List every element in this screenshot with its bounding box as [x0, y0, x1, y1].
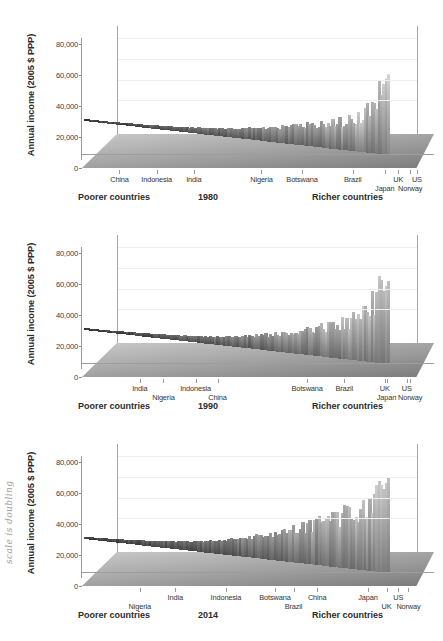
x-tick-mark [175, 588, 176, 592]
country-label-us: US [412, 175, 422, 184]
caption-poorer: Poorer countries [78, 610, 150, 620]
country-label-uk: UK [380, 384, 390, 393]
panel-year: 1980 [198, 192, 218, 202]
x-tick-mark [398, 170, 399, 174]
y-axis-title: Annual income (2005 $ PPP) [26, 20, 40, 170]
caption-poorer: Poorer countries [78, 401, 150, 411]
x-tick-mark [163, 379, 164, 383]
y-axis-title: Annual income (2005 $ PPP) [26, 229, 40, 379]
x-tick-mark [157, 170, 158, 174]
x-axis-baseline [82, 572, 434, 573]
country-label-china: China [110, 175, 129, 184]
chart-panel-1990: Annual income (2005 $ PPP) 020,00040,000… [0, 209, 443, 418]
x-tick-mark [261, 170, 262, 174]
country-label-nigeria: Nigeria [250, 175, 272, 184]
y-tick-label: 80,000 [56, 39, 78, 48]
x-tick-mark [353, 170, 354, 174]
x-tick-mark [398, 588, 399, 592]
panel-caption: Poorer countries 2014 Richer countries [0, 610, 443, 626]
y-axis-ticks: 020,00040,00060,00080,000 [52, 237, 82, 377]
x-tick-mark [417, 170, 418, 174]
country-ridge [387, 478, 390, 573]
x-tick-mark [368, 588, 369, 592]
country-label-brazil: Brazil [344, 175, 362, 184]
x-tick-mark [294, 588, 295, 592]
grid-line [118, 456, 417, 457]
plot-area [82, 440, 434, 586]
y-axis-ticks: 020,00040,00060,00080,000 [52, 446, 82, 586]
income-surface [82, 440, 434, 586]
y-tick-label: 40,000 [56, 310, 78, 319]
y-tick-label: 60,000 [56, 488, 78, 497]
x-tick-mark [302, 170, 303, 174]
country-label-uk: UK [393, 175, 403, 184]
x-tick-mark [196, 379, 197, 383]
country-label-india: India [132, 384, 147, 393]
country-label-japan: Japan [358, 593, 377, 602]
y-axis-ticks: 020,00040,00060,00080,000 [52, 28, 82, 168]
grid-line [118, 268, 417, 269]
y-tick-label: 0 [74, 582, 78, 591]
plot-area [82, 22, 434, 168]
grid-line [118, 477, 417, 478]
country-label-brazil: Brazil [335, 384, 353, 393]
grid-line [118, 247, 417, 248]
y-tick-label: 40,000 [56, 101, 78, 110]
x-tick-mark [385, 170, 386, 174]
grid-line [118, 59, 417, 60]
income-surface [82, 231, 434, 377]
chart-panel-1980: Annual income (2005 $ PPP) 020,00040,000… [0, 0, 443, 209]
y-tick-label: 0 [74, 373, 78, 382]
caption-richer: Richer countries [312, 401, 383, 411]
chart-panel-2014: Annual income (2005 $ PPP) 020,00040,000… [0, 418, 443, 627]
panel-caption: Poorer countries 1990 Richer countries [0, 401, 443, 417]
grid-line [118, 309, 417, 310]
caption-poorer: Poorer countries [78, 192, 150, 202]
x-axis-baseline [82, 363, 434, 364]
x-tick-mark [407, 379, 408, 383]
y-tick-label: 80,000 [56, 457, 78, 466]
x-axis-baseline [82, 154, 434, 155]
x-tick-mark [218, 379, 219, 383]
country-label-botswana: Botswana [259, 593, 290, 602]
plot-area [82, 231, 434, 377]
country-label-india: India [186, 175, 201, 184]
y-tick-label: 60,000 [56, 279, 78, 288]
country-label-us: US [402, 384, 412, 393]
grid-line [118, 518, 417, 519]
country-label-indonesia: Indonesia [141, 175, 172, 184]
y-tick-label: 20,000 [56, 550, 78, 559]
grid-line [118, 38, 417, 39]
y-tick-label: 20,000 [56, 341, 78, 350]
y-tick-label: 60,000 [56, 70, 78, 79]
x-tick-mark [408, 588, 409, 592]
x-tick-mark [140, 379, 141, 383]
y-tick-label: 0 [74, 164, 78, 173]
grid-line [118, 498, 417, 499]
y-axis-title: Annual income (2005 $ PPP) [26, 438, 40, 588]
x-tick-mark [275, 588, 276, 592]
country-label-india: India [168, 593, 183, 602]
x-tick-mark [307, 379, 308, 383]
country-label-botswana: Botswana [286, 175, 317, 184]
country-label-indonesia: Indonesia [211, 593, 242, 602]
x-tick-mark [140, 588, 141, 592]
caption-richer: Richer countries [312, 610, 383, 620]
country-label-botswana: Botswana [291, 384, 322, 393]
y-tick-mark [79, 377, 82, 378]
income-surface [82, 22, 434, 168]
x-tick-mark [226, 588, 227, 592]
country-ridge [387, 281, 390, 364]
country-label-china: China [308, 593, 327, 602]
grid-line [118, 80, 417, 81]
y-tick-label: 40,000 [56, 519, 78, 528]
country-ridge [387, 74, 390, 155]
x-tick-mark [344, 379, 345, 383]
y-tick-label: 20,000 [56, 132, 78, 141]
y-tick-label: 80,000 [56, 248, 78, 257]
grid-line [118, 289, 417, 290]
panel-year: 1990 [198, 401, 218, 411]
country-label-indonesia: Indonesia [180, 384, 211, 393]
x-tick-mark [119, 170, 120, 174]
x-tick-mark [387, 588, 388, 592]
